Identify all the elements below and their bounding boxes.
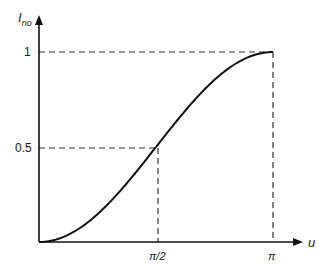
- y-axis-arrow-icon: [35, 15, 43, 25]
- x-tick-pi: π: [268, 250, 275, 262]
- x-axis-label: u: [308, 235, 315, 250]
- y-axis-label: Ino: [18, 10, 32, 28]
- chart-canvas: [0, 0, 326, 265]
- curve-line: [39, 52, 273, 242]
- x-tick-pi-half: π/2: [149, 250, 166, 262]
- x-axis-arrow-icon: [293, 238, 303, 246]
- y-tick-0.5: 0.5: [15, 141, 32, 155]
- y-label-sub: no: [22, 18, 32, 28]
- y-tick-1: 1: [24, 45, 31, 59]
